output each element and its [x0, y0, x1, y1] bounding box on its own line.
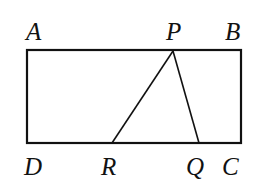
segment-pr	[112, 51, 173, 143]
segment-pq	[173, 51, 199, 143]
label-b: B	[225, 18, 240, 45]
rectangle-abcd	[27, 50, 241, 143]
label-c: C	[222, 153, 239, 180]
label-q: Q	[186, 153, 204, 180]
label-p: P	[165, 18, 181, 45]
label-d: D	[23, 153, 42, 180]
label-r: R	[100, 153, 116, 180]
geometry-figure: A P B D R Q C	[0, 0, 260, 194]
label-a: A	[24, 18, 42, 45]
